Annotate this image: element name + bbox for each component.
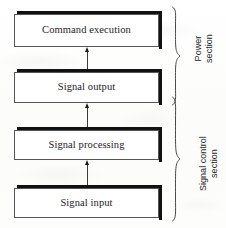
- group-label-signal-control-section-line2: section: [209, 109, 220, 219]
- arrow-head-processing-to-output: [85, 103, 89, 108]
- arrow-stem-output-to-command: [87, 51, 88, 71]
- block-label-command-execution: Command execution: [42, 25, 131, 36]
- group-label-signal-control-section: Signal control section: [198, 109, 219, 219]
- block-shadow-right-signal-output: [159, 71, 162, 105]
- group-label-power-section: Power section: [193, 9, 214, 89]
- block-label-signal-output: Signal output: [58, 82, 116, 93]
- arrow-head-output-to-command: [85, 47, 89, 52]
- group-label-power-section-line2: section: [204, 9, 215, 89]
- brace-signal-control-section: [169, 96, 183, 222]
- block-signal-processing[interactable]: Signal processing: [14, 130, 159, 160]
- block-shadow-right-command-execution: [159, 13, 162, 49]
- block-label-signal-input: Signal input: [60, 198, 112, 209]
- block-command-execution[interactable]: Command execution: [14, 14, 159, 47]
- arrow-stem-input-to-processing: [87, 164, 88, 187]
- arrow-head-input-to-processing: [85, 160, 89, 165]
- group-label-power-section-line1: Power: [193, 9, 204, 89]
- diagram-canvas: Command execution Signal output Signal p…: [0, 0, 226, 228]
- group-label-signal-control-section-line1: Signal control: [198, 109, 209, 219]
- block-shadow-right-signal-processing: [159, 129, 162, 162]
- arrow-stem-processing-to-output: [87, 107, 88, 129]
- block-shadow-right-signal-input: [159, 187, 162, 220]
- block-signal-input[interactable]: Signal input: [14, 188, 159, 218]
- block-signal-output[interactable]: Signal output: [14, 72, 159, 103]
- brace-power-section: [169, 6, 183, 106]
- block-label-signal-processing: Signal processing: [48, 140, 124, 151]
